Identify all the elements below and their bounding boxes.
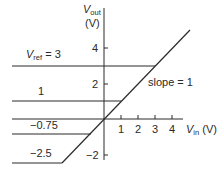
y-axis-unit: (V) bbox=[85, 18, 100, 29]
x-tick-label-3: 3 bbox=[152, 124, 158, 135]
level-label-1: 1 bbox=[38, 86, 44, 97]
x-tick-label-2: 2 bbox=[135, 124, 141, 135]
x-tick-label-4: 4 bbox=[169, 124, 175, 135]
x-tick-label-1: 1 bbox=[118, 124, 124, 135]
y-axis-label: Vout bbox=[83, 4, 101, 17]
level-label-neg2.5: −2.5 bbox=[30, 148, 52, 159]
y-tick-label-neg2: −2 bbox=[86, 150, 99, 161]
x-axis-label: Vin (V) bbox=[186, 124, 217, 137]
level-label-neg0.75: −0.75 bbox=[30, 120, 58, 131]
y-tick-label-2: 2 bbox=[92, 79, 98, 90]
y-tick-label-4: 4 bbox=[92, 43, 98, 54]
slope-line bbox=[62, 30, 190, 163]
slope-label: slope = 1 bbox=[148, 77, 193, 88]
vref-label: Vref = 3 bbox=[26, 49, 61, 62]
